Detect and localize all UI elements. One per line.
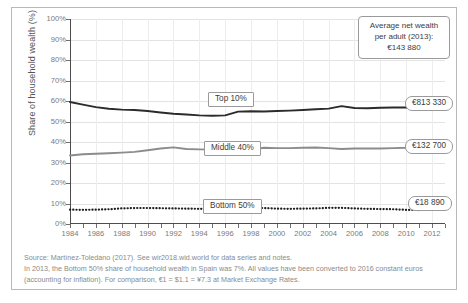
x-tick-mark [445, 224, 446, 228]
x-tick-label: 1992 [165, 230, 182, 238]
x-tick-label: 2010 [398, 230, 415, 238]
y-tick-label: 20% [32, 179, 66, 187]
plot-area: Share of household wealth (%) 0%10%20%30… [12, 8, 458, 242]
x-tick-mark [316, 224, 317, 228]
series-label-top10: Top 10% [208, 92, 254, 107]
value-callout-middle40: €132 700 [405, 139, 453, 154]
notes-line-1: Source: Martínez-Toledano (2017). See wi… [24, 252, 448, 263]
notes-line-3: (accounting for inflation). For comparis… [24, 274, 448, 285]
y-tick-label: 90% [32, 36, 66, 44]
x-tick-label: 1990 [139, 230, 156, 238]
x-tick-label: 1986 [87, 230, 104, 238]
x-tick-mark [251, 224, 252, 228]
chart-page: Share of household wealth (%) 0%10%20%30… [0, 0, 468, 303]
x-tick-mark [199, 224, 200, 228]
x-tick-mark [96, 224, 97, 228]
x-tick-mark [186, 224, 187, 228]
average-net-wealth-annotation: Average net wealth per adult (2013): €14… [358, 16, 450, 59]
notes-line-2: In 2013, the Bottom 50% share of househo… [24, 263, 448, 274]
series-line-top-10 [70, 102, 445, 116]
series-label-middle40: Middle 40% [204, 141, 261, 156]
series-label-bottom50: Bottom 50% [203, 199, 262, 214]
x-tick-mark [432, 224, 433, 228]
x-tick-label: 2002 [294, 230, 311, 238]
x-tick-label: 2004 [320, 230, 337, 238]
x-tick-mark [238, 224, 239, 228]
x-tick-mark [380, 224, 381, 228]
x-axis-ticks: 1984198619881990199219941996199820002002… [70, 230, 445, 242]
y-axis-ticks: 0%10%20%30%40%50%60%70%80%90%100% [32, 8, 66, 223]
x-tick-mark [290, 224, 291, 228]
x-tick-mark [342, 224, 343, 228]
y-tick-label: 10% [32, 200, 66, 208]
y-tick-label: 50% [32, 118, 66, 126]
y-tick-label: 0% [32, 220, 66, 228]
x-tick-mark [277, 224, 278, 228]
x-tick-mark [303, 224, 304, 228]
annotation-line-2: per adult (2013): [362, 32, 446, 43]
x-tick-label: 2000 [268, 230, 285, 238]
x-tick-mark [122, 224, 123, 228]
x-tick-mark [148, 224, 149, 228]
x-tick-mark [173, 224, 174, 228]
y-tick-label: 70% [32, 77, 66, 85]
y-tick-label: 40% [32, 138, 66, 146]
x-tick-mark [212, 224, 213, 228]
annotation-line-1: Average net wealth [362, 21, 446, 32]
x-tick-mark [135, 224, 136, 228]
x-tick-label: 2006 [346, 230, 363, 238]
x-tick-mark [367, 224, 368, 228]
y-tick-label: 100% [32, 15, 66, 23]
x-tick-label: 1988 [113, 230, 130, 238]
y-tick-label: 80% [32, 56, 66, 64]
x-tick-label: 2008 [372, 230, 389, 238]
x-tick-mark [393, 224, 394, 228]
x-tick-mark [161, 224, 162, 228]
x-tick-mark [70, 224, 71, 228]
value-callout-bottom50: €18 890 [408, 196, 452, 211]
x-tick-mark [109, 224, 110, 228]
x-tick-mark [329, 224, 330, 228]
annotation-line-3: €143 880 [362, 43, 446, 54]
y-tick-label: 30% [32, 159, 66, 167]
x-tick-mark [83, 224, 84, 228]
x-tick-label: 1984 [62, 230, 79, 238]
x-tick-label: 1994 [191, 230, 208, 238]
chart-card: Share of household wealth (%) 0%10%20%30… [11, 7, 457, 290]
x-tick-label: 1998 [243, 230, 260, 238]
x-tick-label: 2012 [424, 230, 441, 238]
y-tick-label: 60% [32, 97, 66, 105]
x-tick-mark [406, 224, 407, 228]
chart-notes: Source: Martínez-Toledano (2017). See wi… [24, 252, 448, 285]
x-tick-mark [419, 224, 420, 228]
x-tick-label: 1996 [217, 230, 234, 238]
x-tick-mark [225, 224, 226, 228]
x-tick-mark [354, 224, 355, 228]
value-callout-top10: €813 330 [405, 96, 453, 111]
x-tick-mark [264, 224, 265, 228]
